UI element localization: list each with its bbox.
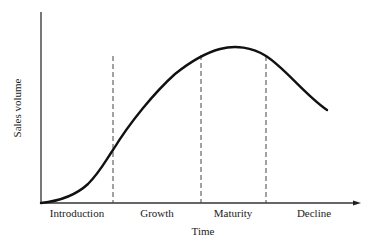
product-life-cycle-chart: Sales volume Introduction Growth Maturit… bbox=[0, 0, 376, 247]
stage-boundaries bbox=[113, 55, 266, 203]
stage-label-decline: Decline bbox=[297, 207, 331, 219]
stage-label-maturity: Maturity bbox=[214, 207, 253, 219]
y-axis-label: Sales volume bbox=[11, 78, 23, 137]
x-axis-label: Time bbox=[192, 225, 215, 237]
x-axis-arrow-icon bbox=[353, 201, 361, 206]
sales-curve bbox=[41, 47, 327, 203]
stage-label-growth: Growth bbox=[140, 207, 174, 219]
stage-label-introduction: Introduction bbox=[50, 207, 105, 219]
